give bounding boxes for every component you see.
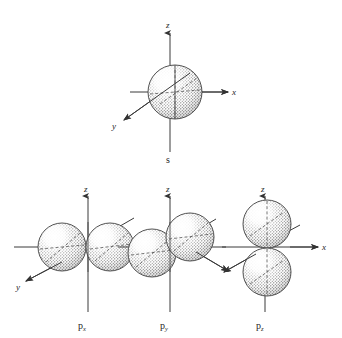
s-x-axis-label: x — [231, 87, 236, 97]
s-orbital-label: s — [166, 154, 170, 165]
pz-label-sub: z — [260, 325, 264, 332]
s-z-axis-label: z — [165, 20, 170, 30]
px-y-axis-label: y — [15, 282, 20, 292]
orbital-figure: z x y s z y — [0, 0, 342, 338]
s-y-axis-label: y — [111, 121, 116, 131]
pz-z-axis-label: z — [260, 184, 265, 194]
py-label-sub: y — [164, 325, 168, 332]
py-z-axis-label: z — [165, 184, 170, 194]
py-lobe-far — [166, 213, 214, 261]
pz-lobe-lower — [243, 248, 291, 296]
pz-x-axis-label: x — [321, 242, 326, 252]
px-lobe-left — [38, 223, 86, 271]
pz-lobe-upper — [243, 200, 291, 248]
orbital-diagram-canvas: z x y s z y — [0, 0, 342, 338]
page-background — [0, 0, 342, 338]
px-label-sub: x — [82, 325, 86, 332]
px-z-axis-label: z — [83, 184, 88, 194]
